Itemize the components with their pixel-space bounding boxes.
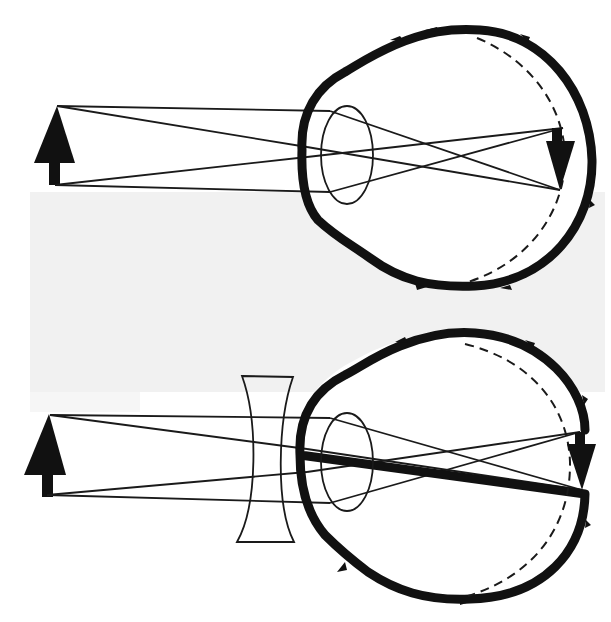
eye-optics-diagram <box>0 0 611 622</box>
ray-band-bg <box>48 104 303 190</box>
figure-page: Myopia and its correction with a concave… <box>0 0 611 622</box>
myopic-eye-panel <box>34 27 595 290</box>
corrected-eye-panel <box>24 330 596 605</box>
